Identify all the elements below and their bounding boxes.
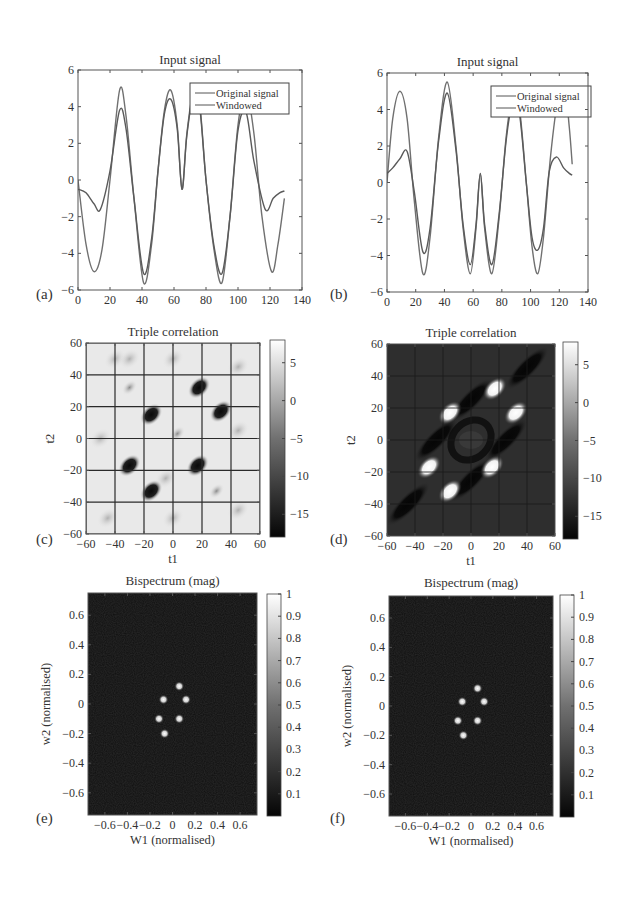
x-tick-label: 140	[579, 295, 597, 309]
x-tick-label: 0.6	[233, 818, 248, 832]
colorbar: 10.90.80.70.60.50.40.30.20.1	[267, 587, 301, 816]
legend: Original signalWindowed	[190, 83, 289, 114]
y-tick-label: −2	[370, 212, 383, 226]
y-tick-label: 20	[70, 400, 82, 414]
panel-label: (b)	[330, 286, 348, 303]
colorbar-tick-label: 1	[579, 588, 585, 602]
x-tick-label: 0	[468, 819, 474, 833]
colorbar-tick-label: 0.8	[286, 631, 301, 645]
y-tick-label: 40	[70, 368, 82, 382]
y-axis-label: t2	[344, 435, 358, 445]
x-tick-label: 140	[293, 293, 311, 307]
x-tick-label: 0.2	[188, 818, 203, 832]
x-tick-label: 60	[168, 293, 180, 307]
x-tick-label: 80	[496, 295, 508, 309]
colorbar-tick-label: 0.2	[286, 765, 301, 779]
y-tick-label: 0	[68, 173, 74, 187]
chart-title: Triple correlation	[426, 325, 517, 340]
bispectrum-peak	[154, 714, 164, 724]
panel-label: (c)	[36, 531, 53, 548]
x-tick-label: 0	[384, 295, 390, 309]
y-tick-label: 40	[371, 369, 383, 383]
y-tick-label: −0.2	[363, 728, 385, 742]
y-tick-label: −0.4	[62, 756, 84, 770]
y-tick-label: −4	[61, 246, 74, 260]
panel-e: 10.90.80.70.60.50.40.30.20.1−0.6−0.4−0.2…	[36, 573, 301, 847]
y-tick-label: −20	[63, 463, 82, 477]
y-tick-label: 0.4	[69, 638, 84, 652]
colorbar-tick-label: −10	[290, 469, 309, 483]
y-tick-label: −60	[63, 527, 82, 541]
colorbar: 50−5−10−15	[563, 342, 602, 539]
y-tick-label: 4	[68, 100, 74, 114]
figure: Original signalWindowed02040608010012014…	[0, 0, 637, 899]
chart-title: Input signal	[159, 52, 221, 67]
colorbar-tick-label: 5	[290, 356, 296, 370]
bispectrum-peak	[181, 695, 191, 705]
x-tick-label: 0	[170, 818, 176, 832]
y-tick-label: −6	[370, 285, 383, 299]
panel-label: (d)	[330, 531, 348, 548]
panel-label: (e)	[36, 810, 53, 827]
colorbar-tick-label: −5	[290, 432, 303, 446]
y-axis-label: w2 (normalised)	[340, 665, 354, 747]
y-tick-label: −2	[61, 210, 74, 224]
colorbar-tick-label: 0.9	[579, 610, 594, 624]
bispectrum-peak	[473, 716, 483, 726]
colorbar-tick-label: −15	[290, 507, 309, 521]
bispectrum-peak	[457, 697, 467, 707]
colorbar-tick-label: 0.6	[286, 676, 301, 690]
x-tick-label: 120	[550, 295, 568, 309]
colorbar-tick-label: −5	[583, 434, 596, 448]
bispectrum-peak	[458, 730, 468, 740]
y-tick-label: −60	[364, 529, 383, 543]
colorbar-tick-label: 0	[290, 394, 296, 408]
x-tick-label: −20	[135, 537, 154, 551]
y-tick-label: 0.2	[370, 670, 385, 684]
colorbar-tick-label: 0.9	[286, 609, 301, 623]
bispectrum-peak	[158, 695, 168, 705]
y-tick-label: −0.6	[363, 787, 385, 801]
panel-label: (f)	[330, 810, 345, 827]
plot-area	[389, 596, 553, 816]
y-tick-label: 60	[70, 336, 82, 350]
x-tick-label: −0.6	[94, 818, 116, 832]
colorbar-tick-label: 0.2	[579, 766, 594, 780]
x-tick-label: 20	[493, 539, 505, 553]
legend-entry: Windowed	[216, 100, 262, 111]
legend-entry: Windowed	[517, 103, 563, 114]
y-tick-label: 2	[68, 136, 74, 150]
colorbar-tick-label: 1	[286, 587, 292, 601]
bispectrum-peak	[174, 714, 184, 724]
x-tick-label: 0.4	[210, 818, 225, 832]
x-tick-label: −0.4	[117, 818, 139, 832]
x-tick-label: 60	[254, 537, 266, 551]
y-tick-label: 6	[68, 63, 74, 77]
x-tick-label: −40	[406, 539, 425, 553]
chart-title: Bispectrum (mag)	[125, 573, 219, 588]
x-tick-label: 40	[521, 539, 533, 553]
x-tick-label: 60	[467, 295, 479, 309]
panel-a: Original signalWindowed02040608010012014…	[36, 52, 311, 307]
colorbar-tick-label: 0.5	[286, 698, 301, 712]
x-tick-label: 0.4	[507, 819, 522, 833]
y-tick-label: 0	[379, 699, 385, 713]
x-tick-label: 20	[104, 293, 116, 307]
colorbar-tick-label: 0.7	[286, 654, 301, 668]
x-tick-label: −0.2	[438, 819, 460, 833]
colorbar-tick-label: 0.4	[286, 720, 301, 734]
panel-d: 50−5−10−15−60−40−200204060−60−40−2002040…	[330, 325, 602, 568]
bispectrum-peak	[174, 681, 184, 691]
y-tick-label: 0.2	[69, 667, 84, 681]
y-tick-label: 0	[377, 176, 383, 190]
colorbar-tick-label: −10	[583, 471, 602, 485]
legend: Original signalWindowed	[491, 86, 591, 117]
colorbar: 50−5−10−15	[270, 340, 309, 537]
y-tick-label: 0	[76, 432, 82, 446]
x-tick-label: −0.4	[416, 819, 438, 833]
panel-f: 10.90.80.70.60.50.40.30.20.1−0.6−0.4−0.2…	[330, 575, 594, 848]
x-axis-label: W1 (normalised)	[428, 834, 513, 848]
y-tick-label: −0.6	[62, 786, 84, 800]
x-tick-label: 100	[229, 293, 247, 307]
x-tick-label: 0	[468, 539, 474, 553]
